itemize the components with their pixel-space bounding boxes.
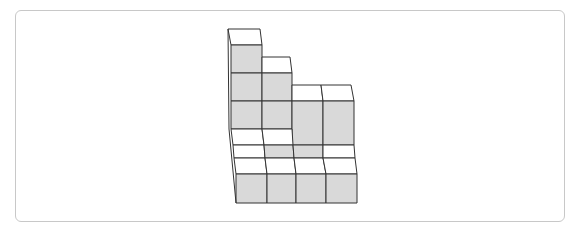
cube-front-face <box>292 101 323 145</box>
cube-top-face <box>262 129 293 145</box>
cube-front-face <box>231 101 262 129</box>
cube-front-face <box>264 145 294 158</box>
cube-front-face <box>293 145 323 158</box>
cube-front-face <box>262 73 292 101</box>
cube-top-face <box>234 158 267 174</box>
cube-top-face <box>321 85 354 101</box>
cube-top-face <box>231 129 264 145</box>
cube-top-face <box>265 158 296 174</box>
cube-top-face <box>262 57 292 73</box>
cube-front-face <box>267 174 296 203</box>
cube-stack-diagram <box>0 0 579 237</box>
cube-front-face <box>236 174 267 203</box>
cube-top-face <box>323 158 357 174</box>
cube-front-face <box>231 45 262 73</box>
cube-top-face <box>323 145 355 158</box>
cube-front-face <box>326 174 357 203</box>
cube-front-face <box>262 101 292 129</box>
cube-front-face <box>323 101 354 145</box>
cube-top-face <box>228 29 262 45</box>
cube-front-face <box>231 73 262 101</box>
cube-front-face <box>296 174 326 203</box>
cube-top-face <box>233 145 265 158</box>
cube-top-face <box>292 85 323 101</box>
cube-top-face <box>294 158 326 174</box>
